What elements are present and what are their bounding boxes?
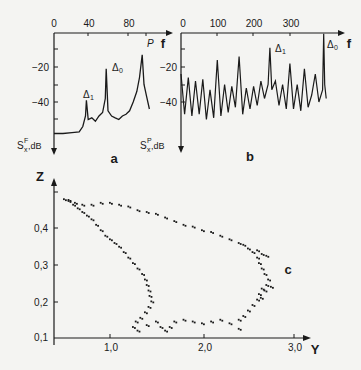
panel-c-xtick-1.0: 1,0 — [104, 342, 118, 353]
svg-text:1: 1 — [90, 94, 94, 101]
panel-b-y-arrow-icon — [178, 146, 184, 153]
panel-a-ytick-40: −40 — [32, 97, 49, 108]
panel-a: 0 40 80 f −20 −40 S F x ,dB S P x ,dB −2… — [17, 18, 177, 166]
svg-text:0: 0 — [119, 67, 123, 74]
panel-a-label: a — [110, 151, 118, 166]
panel-a-xtick-40: 40 — [83, 18, 95, 29]
panel-b: 0 100 200 300 f Δ1 Δ0 b — [178, 18, 352, 164]
svg-text:S: S — [17, 140, 24, 151]
panel-c-ytick-0.2: 0,2 — [34, 297, 48, 308]
panel-c-xtick-2.0: 2,0 — [198, 342, 212, 353]
panel-a-x-arrow-icon — [166, 30, 173, 36]
panel-c-x-label: Y — [311, 342, 320, 357]
panel-b-label: b — [246, 149, 254, 164]
svg-text:0: 0 — [334, 44, 338, 51]
panel-b-spectrum-line — [181, 34, 326, 120]
panel-b-x-label: f — [347, 36, 352, 51]
panel-a-delta0-annotation: Δ0 — [112, 62, 123, 74]
panel-a-xtick-80: 80 — [123, 18, 135, 29]
panel-a-right-ytick-40: −40 — [160, 97, 177, 108]
svg-text:Δ: Δ — [327, 39, 334, 50]
svg-text:Δ: Δ — [112, 62, 119, 73]
panel-a-spectrum-line — [54, 55, 149, 134]
figure: 0 40 80 f −20 −40 S F x ,dB S P x ,dB −2… — [0, 0, 361, 370]
panel-a-peak-p: P — [147, 38, 154, 49]
panel-b-xtick-0: 0 — [180, 18, 186, 29]
panel-a-right-ytick-20: −20 — [160, 62, 177, 73]
svg-text:Δ: Δ — [83, 89, 90, 100]
panel-a-delta1-annotation: Δ1 — [83, 89, 94, 101]
panel-a-y-arrow-icon — [51, 148, 57, 155]
panel-c-y-arrow-icon — [51, 178, 57, 186]
panel-c-ytick-0.4: 0,4 — [34, 223, 48, 234]
svg-text:,dB: ,dB — [28, 141, 42, 151]
panel-c-ytick-0.1: 0,1 — [34, 332, 48, 343]
svg-text:S: S — [140, 140, 147, 151]
panel-a-x-label: f — [161, 36, 166, 51]
panel-a-ytick-20: −20 — [32, 62, 49, 73]
panel-b-x-arrow-icon — [338, 30, 345, 36]
panel-c-xtick-3.0: 3,0 — [288, 342, 302, 353]
panel-c-x-arrow-icon — [303, 335, 311, 341]
panel-b-delta1-annotation: Δ1 — [275, 43, 286, 55]
panel-c: Z Y 0,4 0,3 0,2 0,1 1,0 2,0 3,0 c — [34, 169, 320, 357]
panel-c-ytick-0.3: 0,3 — [34, 260, 48, 271]
panel-a-xtick-0: 0 — [51, 18, 57, 29]
svg-text:Δ: Δ — [275, 43, 282, 54]
svg-text:,dB: ,dB — [151, 141, 165, 151]
panel-b-delta0-annotation: Δ0 — [327, 39, 338, 51]
panel-a-y-left-label: S F x ,dB — [17, 137, 42, 153]
panel-b-xtick-200: 200 — [246, 18, 263, 29]
panel-c-scatter-points — [63, 198, 274, 332]
panel-a-y-right-label: S P x ,dB — [140, 137, 165, 153]
panel-b-xtick-100: 100 — [210, 18, 227, 29]
panel-b-xtick-300: 300 — [283, 18, 300, 29]
panel-c-label: c — [284, 262, 291, 277]
svg-text:1: 1 — [282, 48, 286, 55]
panel-c-y-label: Z — [36, 169, 44, 184]
